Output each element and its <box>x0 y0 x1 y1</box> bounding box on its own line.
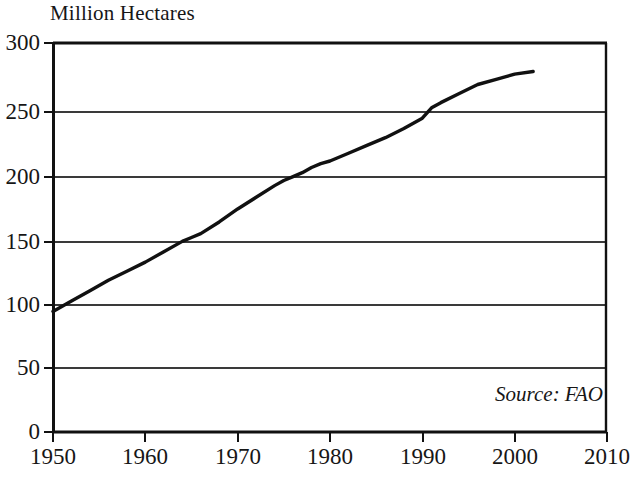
ytick-label-150: 150 <box>0 229 40 255</box>
gridlines <box>53 112 607 368</box>
xtick-label-1960: 1960 <box>105 444 185 470</box>
ytick-label-50: 50 <box>0 355 40 381</box>
ytick-label-300: 300 <box>0 30 40 56</box>
xtick-label-2010: 2010 <box>567 444 643 470</box>
xtick-label-2000: 2000 <box>475 444 555 470</box>
ytick-label-100: 100 <box>0 292 40 318</box>
ytick-label-200: 200 <box>0 164 40 190</box>
source-annotation: Source: FAO <box>495 382 603 407</box>
data-line-irrigated-area <box>53 72 533 312</box>
xtick-label-1980: 1980 <box>290 444 370 470</box>
chart-canvas <box>0 0 643 484</box>
xtick-label-1990: 1990 <box>383 444 463 470</box>
chart-figure: Million Hectares <box>0 0 643 484</box>
xtick-label-1970: 1970 <box>198 444 278 470</box>
ytick-label-250: 250 <box>0 99 40 125</box>
ytick-label-0: 0 <box>0 419 40 445</box>
plot-frame <box>53 43 607 432</box>
xtick-label-1950: 1950 <box>13 444 93 470</box>
y-axis-ticks <box>44 43 53 432</box>
